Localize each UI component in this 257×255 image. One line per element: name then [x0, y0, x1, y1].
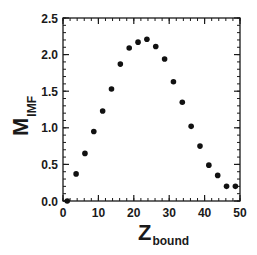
data-point — [171, 79, 177, 85]
data-point — [197, 143, 203, 149]
data-point — [91, 129, 97, 135]
data-point — [162, 56, 168, 62]
data-points — [64, 36, 238, 203]
y-tick-label: 2.0 — [41, 48, 58, 62]
x-axis-label: Zbound — [138, 220, 189, 248]
data-point — [82, 151, 88, 157]
x-tick-label: 50 — [233, 206, 247, 220]
x-tick-label: 10 — [92, 206, 106, 220]
x-tick-label: 0 — [60, 206, 67, 220]
data-point — [73, 171, 79, 177]
y-tick-label: 2.5 — [41, 12, 58, 26]
data-point — [206, 162, 212, 168]
y-tick-label: 1.5 — [41, 85, 58, 99]
data-point — [188, 124, 194, 130]
data-point — [135, 39, 141, 45]
data-point — [126, 45, 132, 51]
plot-frame — [63, 18, 240, 201]
data-point — [100, 108, 106, 114]
data-point — [233, 184, 239, 190]
scatter-chart: 01020304050 0.00.51.01.52.02.5 Zbound MI… — [0, 0, 257, 255]
y-tick-label: 1.0 — [41, 121, 58, 135]
y-tick-labels: 0.00.51.01.52.02.5 — [41, 12, 58, 209]
major-ticks — [63, 18, 240, 201]
data-point — [224, 184, 230, 190]
x-tick-label: 30 — [163, 206, 177, 220]
y-axis-label: MIMF — [8, 96, 39, 136]
data-point — [153, 44, 159, 50]
data-point — [64, 198, 70, 204]
data-point — [215, 173, 221, 179]
y-tick-label: 0.0 — [41, 195, 58, 209]
data-point — [179, 99, 185, 105]
data-point — [144, 36, 150, 42]
x-tick-label: 20 — [127, 206, 141, 220]
x-tick-labels: 01020304050 — [60, 206, 247, 220]
y-tick-label: 0.5 — [41, 158, 58, 172]
data-point — [109, 86, 115, 92]
data-point — [118, 61, 124, 67]
minor-ticks — [63, 18, 240, 201]
x-tick-label: 40 — [198, 206, 212, 220]
